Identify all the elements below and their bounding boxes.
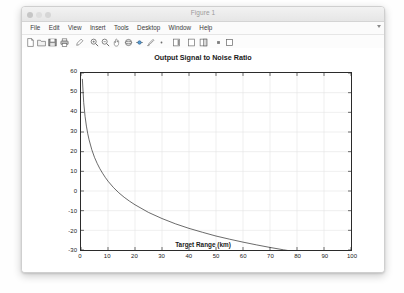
x-tick-label: 10 [97,253,117,259]
y-tick-label: 20 [57,148,77,154]
link-data-icon[interactable] [157,38,166,47]
y-tick-label: 40 [57,108,77,114]
menu-item-edit[interactable]: Edit [45,22,64,34]
menu-item-help[interactable]: Help [195,22,216,34]
plot-browser-icon[interactable] [199,38,208,47]
x-tick-label: 100 [342,253,362,259]
menu-item-view[interactable]: View [64,22,86,34]
y-tick-label: 0 [57,188,77,194]
x-tick-label: 0 [70,253,90,259]
y-tick-label: -20 [57,228,77,234]
menu-item-file[interactable]: File [26,22,45,34]
zoom-out-icon[interactable] [101,38,110,47]
x-tick-label: 40 [179,253,199,259]
legend-icon[interactable] [187,38,196,47]
zoom-in-icon[interactable] [90,38,99,47]
brush-icon[interactable] [146,38,155,47]
window-title-bar[interactable]: Figure 1 [22,7,384,22]
menu-bar: File Edit View Insert Tools Desktop Wind… [22,22,384,35]
menu-item-desktop[interactable]: Desktop [133,22,164,34]
plot-area: Output Signal to Noise Ratio -30-20-1001… [22,48,384,272]
y-tick-label: -10 [57,208,77,214]
x-tick-label: 20 [124,253,144,259]
figure-canvas[interactable]: Output Signal to Noise Ratio -30-20-1001… [22,48,384,272]
x-tick-label: 80 [288,253,308,259]
pan-icon[interactable] [112,38,121,47]
y-tick-label: 30 [57,128,77,134]
x-tick-label: 90 [315,253,335,259]
x-tick-label: 50 [206,253,226,259]
chart-title: Output Signal to Noise Ratio [22,53,384,62]
open-file-icon[interactable] [37,38,46,47]
save-figure-icon[interactable] [48,38,57,47]
colorbar-icon[interactable] [172,38,181,47]
axes-box [80,72,352,251]
show-plot-tools-icon[interactable] [225,38,234,47]
rotate-3d-icon[interactable] [124,38,133,47]
x-tick-label: 30 [152,253,172,259]
y-tick-label: 50 [57,88,77,94]
x-tick-label: 70 [260,253,280,259]
x-tick-label: 60 [233,253,253,259]
new-figure-icon[interactable] [26,38,35,47]
menu-item-tools[interactable]: Tools [110,22,133,34]
data-curve [81,73,351,250]
x-axis-label: Target Range (km) [22,241,384,248]
hide-plot-tools-icon[interactable] [214,38,223,47]
edit-plot-icon[interactable] [75,38,84,47]
print-figure-icon[interactable] [60,38,69,47]
chevron-down-icon[interactable] [377,25,381,28]
data-cursor-icon[interactable] [135,38,144,47]
y-tick-label: 60 [57,68,77,74]
window-title: Figure 1 [22,9,384,16]
menu-item-window[interactable]: Window [164,22,195,34]
figure-window: Figure 1 File Edit View Insert Tools Des… [21,6,385,273]
screen: Figure 1 File Edit View Insert Tools Des… [0,0,404,293]
menu-item-insert[interactable]: Insert [86,22,110,34]
y-tick-label: 10 [57,168,77,174]
